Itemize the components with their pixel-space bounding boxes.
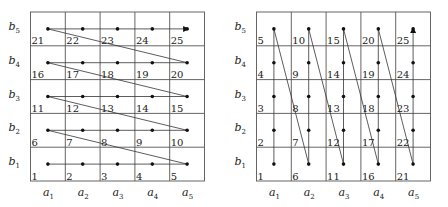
y-axis-label: b2 [235, 121, 247, 136]
cell-number: 13 [101, 103, 114, 114]
grid-point [307, 162, 311, 166]
x-axis-label: a2 [304, 186, 315, 201]
cell-number: 16 [32, 69, 45, 80]
grid-point [377, 61, 381, 65]
cell-number: 6 [32, 137, 38, 148]
grid-point [377, 95, 381, 99]
cell-number: 18 [362, 103, 375, 114]
cell-number: 22 [397, 137, 410, 148]
cell-number: 15 [327, 35, 340, 46]
cell-number: 25 [397, 35, 410, 46]
cell-number: 20 [362, 35, 375, 46]
cell-number: 12 [327, 137, 340, 148]
grid-point [185, 162, 189, 166]
cell-number: 8 [101, 137, 107, 148]
grid-point [411, 95, 415, 99]
grid-point [377, 27, 381, 31]
cell-number: 3 [101, 171, 107, 182]
grid-point [411, 27, 415, 31]
grid-point [46, 95, 50, 99]
cell-number: 1 [32, 171, 38, 182]
x-axis-label: a5 [182, 186, 193, 201]
cell-number: 25 [171, 35, 184, 46]
y-axis-label: b5 [235, 20, 247, 35]
grid-point [377, 129, 381, 133]
cell-number: 14 [327, 69, 340, 80]
ordering-diagrams: 1234567891011121314151617181920212223242… [0, 0, 448, 207]
cell-number: 5 [258, 35, 264, 46]
grid-point [272, 61, 276, 65]
grid-point [151, 27, 155, 31]
x-axis-label: a2 [78, 186, 89, 201]
cell-number: 15 [171, 103, 184, 114]
y-axis-label: b1 [235, 155, 247, 170]
y-axis-label: b3 [9, 88, 21, 103]
grid-point [81, 162, 85, 166]
x-axis-label: a1 [43, 186, 54, 201]
x-axis-label: a5 [408, 186, 419, 201]
grid-point [81, 27, 85, 31]
cell-number: 23 [101, 35, 114, 46]
grid-point [411, 162, 415, 166]
grid-point [46, 129, 50, 133]
grid-point [151, 95, 155, 99]
grid-point [81, 61, 85, 65]
grid-point [272, 27, 276, 31]
grid-point [116, 27, 120, 31]
grid-point [307, 95, 311, 99]
grid-point [272, 129, 276, 133]
grid-point [342, 61, 346, 65]
cell-number: 24 [397, 69, 410, 80]
cell-number: 22 [66, 35, 79, 46]
cell-number: 19 [136, 69, 149, 80]
cell-number: 13 [327, 103, 340, 114]
grid-point [307, 129, 311, 133]
cell-number: 1 [258, 171, 264, 182]
grid-point [116, 162, 120, 166]
grid-point [46, 61, 50, 65]
cell-number: 12 [66, 103, 79, 114]
grid-point [185, 61, 189, 65]
cell-number: 8 [292, 103, 298, 114]
grid-point [411, 129, 415, 133]
cell-number: 5 [171, 171, 177, 182]
cell-number: 18 [101, 69, 114, 80]
cell-number: 11 [32, 103, 45, 114]
grid-point [307, 27, 311, 31]
y-axis-label: b3 [235, 88, 247, 103]
x-axis-label: a4 [373, 186, 385, 201]
grid-point [46, 162, 50, 166]
cell-number: 19 [362, 69, 375, 80]
cell-number: 10 [292, 35, 305, 46]
y-axis-label: b1 [9, 155, 21, 170]
grid-point [342, 95, 346, 99]
cell-number: 17 [362, 137, 375, 148]
grid-point [116, 61, 120, 65]
column-major-grid: 1611162127121722381318234914192451015202… [235, 12, 431, 201]
cell-number: 24 [136, 35, 149, 46]
cell-number: 9 [136, 137, 142, 148]
cell-number: 3 [258, 103, 264, 114]
grid-point [342, 27, 346, 31]
grid-point [272, 95, 276, 99]
cell-number: 21 [397, 171, 410, 182]
y-axis-label: b4 [9, 54, 21, 69]
grid-point [272, 162, 276, 166]
cell-number: 7 [66, 137, 72, 148]
cell-number: 4 [136, 171, 142, 182]
grid-point [185, 27, 189, 31]
grid-point [185, 129, 189, 133]
grid-point [151, 162, 155, 166]
x-axis-label: a3 [113, 186, 124, 201]
cell-number: 14 [136, 103, 149, 114]
cell-number: 21 [32, 35, 45, 46]
x-axis-label: a4 [147, 186, 159, 201]
grid-point [116, 95, 120, 99]
y-axis-label: b4 [235, 54, 247, 69]
grid-point [411, 61, 415, 65]
cell-number: 2 [66, 171, 72, 182]
cell-number: 7 [292, 137, 298, 148]
cell-number: 23 [397, 103, 410, 114]
grid-point [81, 129, 85, 133]
grid-point [116, 129, 120, 133]
